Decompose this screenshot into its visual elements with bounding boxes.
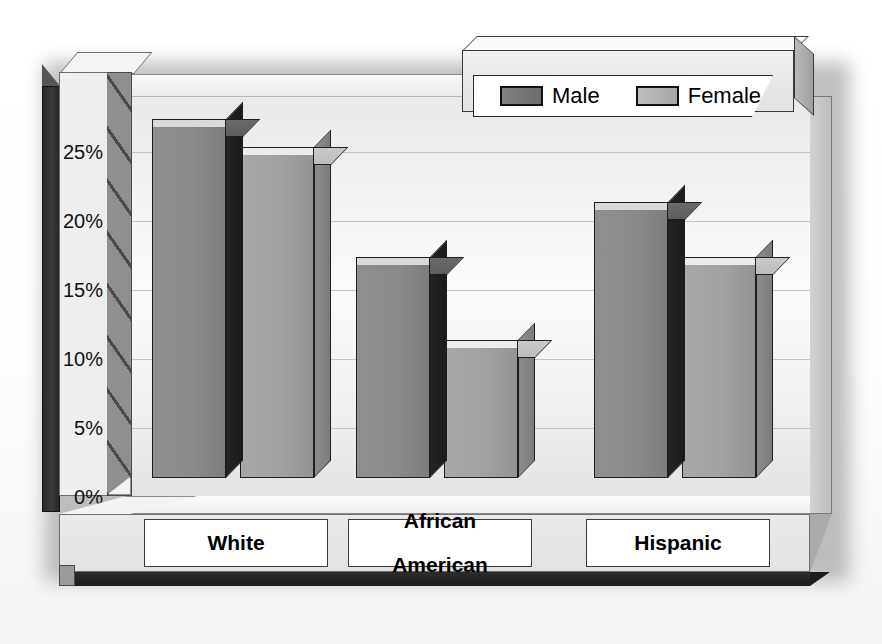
bar-front-face [240, 147, 314, 478]
y-axis-panel: 0%5%10%15%20%25% [59, 72, 107, 496]
bar-side-face [430, 240, 447, 478]
bar-hispanic-male[interactable] [594, 202, 668, 496]
legend-top-face [462, 36, 809, 51]
chart-legend[interactable]: Male Female [462, 36, 818, 116]
y-axis-tick-label: 25% [63, 141, 103, 164]
bar-front-face [356, 257, 430, 478]
bar-chart-3d: 0%5%10%15%20%25% WhiteAfricanAmericanHis… [34, 52, 846, 580]
bar-white-male[interactable] [152, 119, 226, 496]
bar-top-highlight [240, 148, 314, 155]
bar-african-american-female[interactable] [444, 340, 518, 496]
left-edge-top-face [42, 64, 60, 86]
bar-hispanic-female[interactable] [682, 257, 756, 496]
left-side-wall-hatched [106, 72, 132, 496]
bar-front-face [682, 257, 756, 478]
bar-side-face [668, 184, 685, 478]
bar-top-highlight [682, 258, 756, 265]
chart-page: 0%5%10%15%20%25% WhiteAfricanAmericanHis… [0, 0, 882, 644]
right-base-bevel [810, 514, 832, 572]
base-left-foot [59, 565, 75, 586]
bar-side-face [226, 102, 243, 478]
bar-top-highlight [594, 203, 668, 210]
bar-front-face [152, 119, 226, 478]
legend-swatch-female [636, 86, 679, 106]
y-axis-tick-label: 5% [74, 417, 103, 440]
legend-swatch-male [500, 86, 543, 106]
category-label-white: White [144, 519, 328, 567]
right-side-wall [810, 96, 832, 514]
side-wall-bottom-bevel [108, 477, 130, 494]
bar-top-highlight [356, 258, 430, 265]
legend-inner-panel: Male Female [473, 75, 773, 117]
bar-side-face [756, 240, 773, 478]
bar-front-face [594, 202, 668, 478]
bar-top-highlight [444, 341, 518, 348]
legend-shell: Male Female [462, 50, 794, 112]
legend-right-face [794, 36, 814, 116]
legend-item-male[interactable]: Male [500, 83, 600, 109]
legend-label-female: Female [688, 83, 761, 109]
top-left-bevel-face [59, 52, 152, 74]
bar-african-american-male[interactable] [356, 257, 430, 496]
category-label-hispanic: Hispanic [586, 519, 770, 567]
left-dark-edge [42, 86, 60, 512]
legend-item-female[interactable]: Female [636, 83, 761, 109]
legend-label-male: Male [552, 83, 600, 109]
chart-title-cropped [0, 0, 882, 4]
hatch-pattern [106, 72, 132, 496]
base-plinth-bevel [810, 572, 830, 586]
bar-white-female[interactable] [240, 147, 314, 496]
y-axis-tick-label: 15% [63, 279, 103, 302]
y-axis-tick-label: 10% [63, 348, 103, 371]
bar-top-highlight [152, 120, 226, 127]
y-axis-tick-label: 20% [63, 210, 103, 233]
category-label-african-american: AfricanAmerican [348, 519, 532, 567]
bar-side-face [314, 129, 331, 478]
bar-front-face [444, 340, 518, 478]
